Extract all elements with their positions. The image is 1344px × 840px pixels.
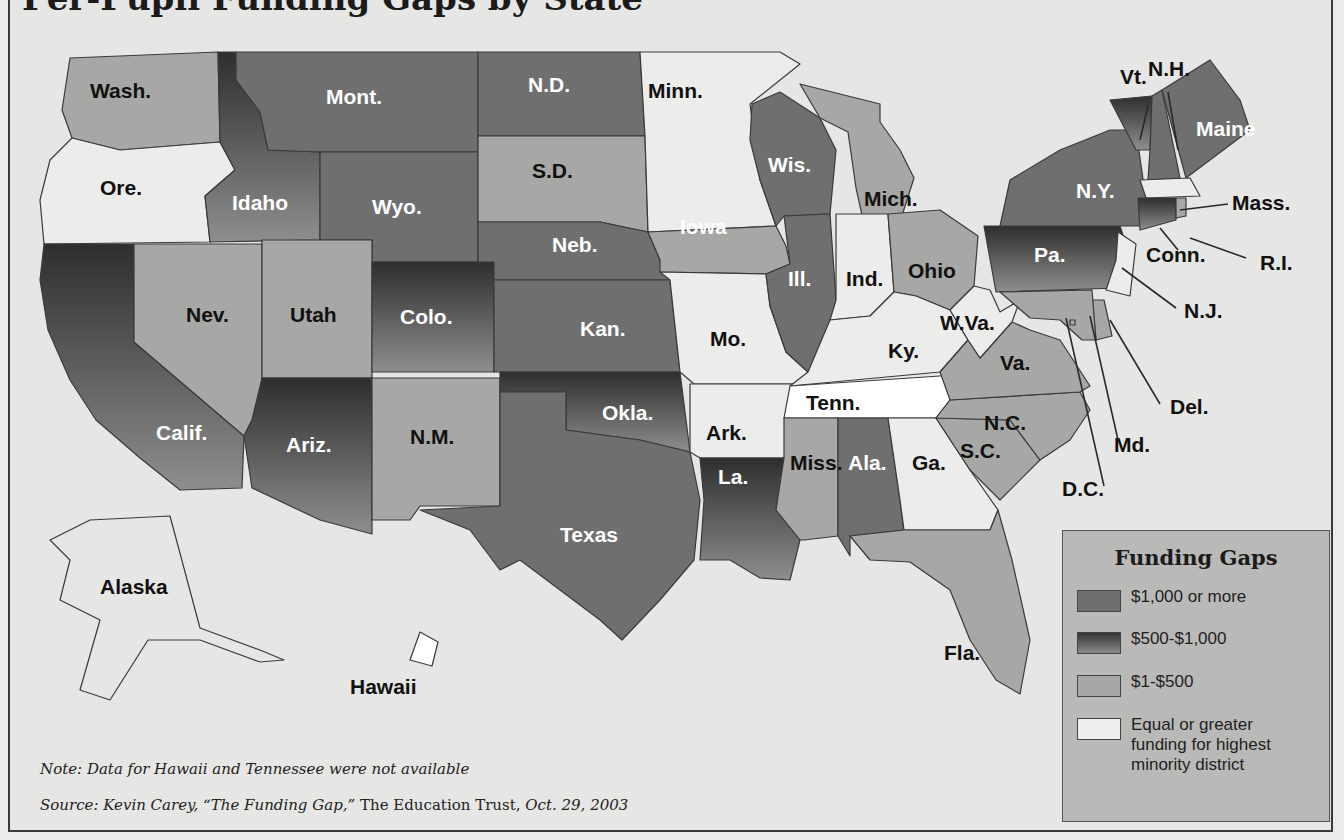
state-ny: [1000, 130, 1148, 226]
state-label-hawaii: Hawaii: [350, 675, 417, 698]
state-label-nev: Nev.: [186, 303, 229, 326]
state-label-ariz: Ariz.: [286, 433, 332, 456]
legend-swatch-none: [1077, 718, 1121, 740]
source-date: Oct. 29, 2003: [525, 796, 628, 814]
state-label-minn: Minn.: [648, 79, 703, 102]
legend-label: Equal or greater funding for highest min…: [1131, 715, 1301, 775]
state-alaska: [50, 516, 284, 700]
state-label-wash: Wash.: [90, 79, 151, 102]
note-text: Note: Data for Hawaii and Tennessee were…: [40, 760, 469, 778]
state-label-ind: Ind.: [846, 267, 883, 290]
state-label-miss: Miss.: [790, 451, 843, 474]
legend-swatch-high: [1077, 590, 1121, 612]
legend-item-none: Equal or greater funding for highest min…: [1077, 715, 1301, 775]
state-ri: [1176, 198, 1186, 218]
legend-item-low: $1-$500: [1077, 672, 1301, 697]
state-label-nc: N.C.: [984, 411, 1026, 434]
state-label-calif: Calif.: [156, 421, 207, 444]
state-label-nj: N.J.: [1184, 299, 1223, 322]
state-label-va: Va.: [1000, 351, 1030, 374]
state-label-kan: Kan.: [580, 317, 626, 340]
state-nm: [372, 378, 500, 520]
state-label-ga: Ga.: [912, 451, 946, 474]
state-label-neb: Neb.: [552, 233, 598, 256]
state-label-utah: Utah: [290, 303, 337, 326]
state-label-iowa: Iowa: [680, 215, 727, 238]
state-label-wyo: Wyo.: [372, 195, 422, 218]
state-label-ala: Ala.: [848, 451, 887, 474]
state-sd: [478, 136, 648, 232]
state-label-texas: Texas: [560, 523, 618, 546]
leader-line-del: [1110, 320, 1160, 404]
legend-swatch-mid: [1077, 632, 1121, 654]
legend-label: $1,000 or more: [1131, 587, 1301, 607]
legend-item-mid: $500-$1,000: [1077, 629, 1301, 654]
state-label-nd: N.D.: [528, 73, 570, 96]
state-label-ny: N.Y.: [1076, 179, 1115, 202]
legend-label: $1-$500: [1131, 672, 1301, 692]
state-label-sc: S.C.: [960, 439, 1001, 462]
state-label-maine: Maine: [1196, 117, 1256, 140]
state-label-mont: Mont.: [326, 85, 382, 108]
state-label-dc: D.C.: [1062, 477, 1104, 500]
state-fla: [850, 510, 1030, 694]
state-label-mo: Mo.: [710, 327, 746, 350]
legend: Funding Gaps $1,000 or more $500-$1,000 …: [1062, 530, 1330, 822]
leader-line-mass: [1180, 204, 1228, 210]
legend-title: Funding Gaps: [1063, 545, 1329, 570]
state-label-colo: Colo.: [400, 305, 453, 328]
legend-swatch-low: [1077, 675, 1121, 697]
legend-label: $500-$1,000: [1131, 629, 1301, 649]
state-hawaii: [410, 632, 438, 666]
state-label-ohio: Ohio: [908, 259, 956, 282]
source-text: Source: Kevin Carey, “The Funding Gap,” …: [40, 796, 628, 814]
source-prefix: Source: Kevin Carey, “The Funding Gap,”: [40, 796, 355, 814]
state-label-okla: Okla.: [602, 401, 653, 424]
state-conn: [1138, 198, 1176, 230]
state-label-idaho: Idaho: [232, 191, 288, 214]
state-label-md: Md.: [1114, 433, 1150, 456]
state-label-nm: N.M.: [410, 425, 454, 448]
state-label-sd: S.D.: [532, 159, 573, 182]
state-label-del: Del.: [1170, 395, 1209, 418]
state-label-nh: N.H.: [1148, 57, 1190, 80]
legend-item-high: $1,000 or more: [1077, 587, 1301, 612]
state-label-ark: Ark.: [706, 421, 747, 444]
state-label-alaska: Alaska: [100, 575, 168, 598]
state-label-la: La.: [718, 465, 748, 488]
source-publisher: The Education Trust,: [355, 796, 525, 814]
state-label-pa: Pa.: [1034, 243, 1066, 266]
state-label-vt: Vt.: [1120, 65, 1147, 88]
state-label-mich: Mich.: [864, 187, 918, 210]
state-label-ky: Ky.: [888, 339, 919, 362]
state-label-mass: Mass.: [1232, 191, 1290, 214]
state-ariz: [244, 378, 372, 534]
state-label-ri: R.I.: [1260, 251, 1293, 274]
state-dc: [1070, 320, 1075, 325]
state-label-fla: Fla.: [944, 641, 980, 664]
state-mass: [1140, 178, 1200, 198]
state-label-ill: Ill.: [788, 267, 811, 290]
state-miss: [776, 418, 838, 540]
state-label-wva: W.Va.: [940, 311, 995, 334]
state-label-wis: Wis.: [768, 153, 811, 176]
state-label-tenn: Tenn.: [806, 391, 860, 414]
state-label-ore: Ore.: [100, 176, 142, 199]
